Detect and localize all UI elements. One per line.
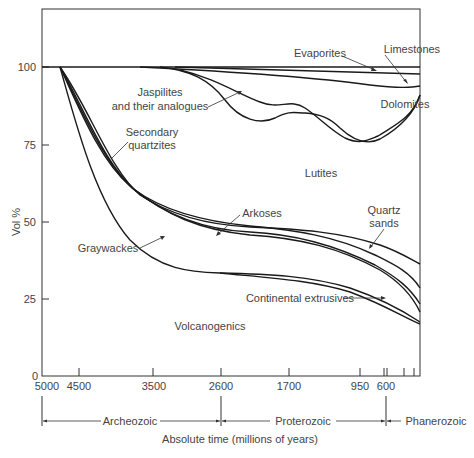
label-secondary-1: Secondary [126, 126, 179, 138]
chart: 100 75 50 25 0 Vol % 5000 4500 3500 2600… [0, 0, 474, 458]
x-axis: 5000 4500 3500 2600 1700 950 600 [35, 368, 414, 392]
y-tick-50: 50 [24, 216, 36, 228]
label-quartz-1: Quartz [367, 204, 400, 216]
x-axis-label: Absolute time (millions of years) [162, 433, 318, 445]
era-proterozoic: Proterozoic [275, 415, 331, 427]
y-axis-label: Vol % [10, 208, 22, 236]
era-archeozoic: Archeozoic [103, 415, 158, 427]
x-tick-2600: 2600 [209, 380, 233, 392]
x-tick-3500: 3500 [142, 380, 166, 392]
y-tick-100: 100 [18, 61, 36, 73]
label-continental: Continental extrusives [246, 292, 355, 304]
label-quartz-2: sands [369, 217, 399, 229]
era-phanerozoic: Phanerozoic [405, 415, 467, 427]
label-lutites: Lutites [305, 167, 338, 179]
y-axis: 100 75 50 25 0 Vol % [10, 61, 49, 382]
x-tick-5000: 5000 [35, 380, 59, 392]
label-volcanogenics: Volcanogenics [175, 320, 246, 332]
x-tick-600: 600 [377, 380, 395, 392]
era-brackets: Archeozoic Proterozoic Phanerozoic Absol… [42, 396, 467, 445]
label-arkoses: Arkoses [242, 207, 282, 219]
label-jaspilites-2: and their analogues [112, 100, 209, 112]
label-graywackes: Graywackes [78, 242, 139, 254]
y-tick-75: 75 [24, 139, 36, 151]
label-evaporites: Evaporites [294, 47, 346, 59]
label-limestones: Limestones [384, 43, 441, 55]
x-tick-4500: 4500 [67, 380, 91, 392]
label-dolomites: Dolomites [381, 98, 430, 110]
label-secondary-2: quartzites [128, 139, 176, 151]
x-tick-950: 950 [351, 380, 369, 392]
x-tick-1700: 1700 [277, 380, 301, 392]
y-tick-25: 25 [24, 293, 36, 305]
curves [42, 67, 420, 324]
label-jaspilites-1: Jaspilites [137, 86, 183, 98]
